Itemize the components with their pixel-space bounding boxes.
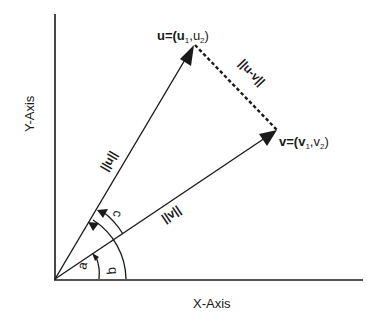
vector-v-close: ) (324, 134, 328, 149)
vector-u-sep: ,u (189, 28, 200, 43)
angle-c-arrowhead-icon (97, 209, 108, 218)
norm-u-label: ||u|| (97, 149, 120, 174)
vector-u-close: ) (205, 28, 209, 43)
angle-a-arc (96, 257, 99, 279)
angle-b-label: b (103, 267, 119, 276)
vector-v-label: v=(v1,v2) (279, 134, 329, 151)
angle-c-label: c (110, 209, 126, 218)
angle-a-arrowhead-icon (92, 253, 99, 261)
vector-diagram: a b c ||u|| ||v|| ||u-v|| u=(u1,u2) v=(v… (0, 0, 378, 328)
difference-dashed-line (195, 45, 277, 130)
vector-v-sep: ,v (310, 134, 321, 149)
vector-u-line (55, 58, 186, 279)
x-axis-label: X-Axis (193, 296, 231, 311)
norm-difference-label: ||u-v|| (236, 56, 268, 88)
vector-u-label: u=(u1,u2) (157, 28, 209, 45)
vector-u-arrowhead-icon (180, 45, 194, 66)
angle-b-arrowhead-icon (88, 222, 99, 231)
angle-a-label: a (74, 260, 90, 270)
vector-v-arrowhead-icon (259, 130, 277, 146)
vector-v-label-main: v=(v (279, 134, 306, 149)
vector-u-label-main: u=(u (157, 28, 185, 43)
vector-v-line (55, 138, 265, 279)
y-axis-label: Y-Axis (22, 95, 37, 132)
